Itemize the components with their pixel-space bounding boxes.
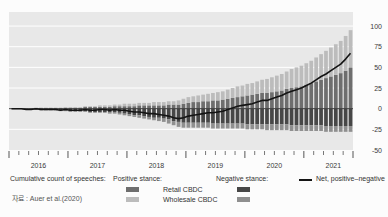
- bar-negative-retail: [349, 109, 353, 126]
- bar-negative-wholesale: [103, 112, 107, 113]
- bar-positive-wholesale: [172, 101, 176, 104]
- bar-negative-retail: [216, 109, 220, 124]
- bar-negative-wholesale: [265, 124, 269, 130]
- bar-positive-retail: [177, 105, 181, 109]
- bar-negative-retail: [236, 109, 240, 124]
- positive-wholesale-swatch: [126, 197, 139, 202]
- bar-negative-wholesale: [177, 122, 181, 127]
- bar-negative-retail: [196, 109, 200, 123]
- bar-negative-retail: [314, 109, 318, 126]
- net-line-swatch: [299, 179, 312, 181]
- bar-positive-wholesale: [93, 106, 97, 107]
- cbdc-speeches-chart: 1007550250-25-50201620172018201920202021…: [0, 0, 388, 217]
- y-axis-label: 0: [378, 105, 382, 112]
- bar-positive-wholesale: [196, 95, 200, 102]
- bar-negative-wholesale: [250, 124, 254, 129]
- bar-positive-wholesale: [162, 102, 166, 105]
- bar-negative-wholesale: [98, 112, 102, 113]
- bar-positive-retail: [216, 100, 220, 108]
- bar-positive-retail: [241, 96, 245, 108]
- bar-positive-retail: [187, 103, 191, 109]
- bar-negative-wholesale: [241, 124, 245, 129]
- bar-positive-retail: [182, 104, 186, 109]
- bar-negative-wholesale: [152, 118, 156, 120]
- bar-negative-wholesale: [304, 125, 308, 131]
- bar-positive-wholesale: [177, 100, 181, 104]
- bar-negative-wholesale: [78, 111, 82, 112]
- bar-positive-retail: [167, 105, 171, 109]
- bar-positive-retail: [250, 95, 254, 109]
- bar-negative-wholesale: [88, 112, 92, 113]
- source-citation: 자료 : Auer et al.(2020): [12, 193, 82, 203]
- bar-negative-wholesale: [216, 124, 220, 129]
- bar-positive-retail: [304, 85, 308, 109]
- x-axis-year-label: 2016: [31, 162, 47, 169]
- bar-positive-wholesale: [118, 105, 122, 107]
- bar-positive-retail: [314, 81, 318, 108]
- bar-negative-wholesale: [167, 119, 171, 123]
- bar-positive-wholesale: [83, 106, 87, 107]
- bar-negative-wholesale: [280, 124, 284, 130]
- bar-negative-wholesale: [270, 124, 274, 130]
- bar-negative-wholesale: [334, 126, 338, 132]
- bar-positive-wholesale: [295, 67, 299, 87]
- bar-negative-wholesale: [69, 111, 73, 112]
- bar-negative-wholesale: [118, 113, 122, 115]
- bar-negative-wholesale: [349, 126, 353, 132]
- y-axis-label: 50: [374, 64, 382, 71]
- bar-negative-wholesale: [108, 112, 112, 114]
- bar-positive-wholesale: [245, 84, 249, 96]
- bar-negative-retail: [344, 109, 348, 126]
- bar-negative-wholesale: [245, 124, 249, 129]
- x-axis-year-label: 2019: [208, 162, 224, 169]
- bar-negative-wholesale: [83, 111, 87, 112]
- bar-positive-wholesale: [241, 86, 245, 97]
- bar-negative-retail: [265, 109, 269, 125]
- bar-negative-retail: [339, 109, 343, 126]
- bar-negative-retail: [309, 109, 313, 126]
- bar-negative-wholesale: [132, 115, 136, 117]
- bar-positive-retail: [349, 67, 353, 108]
- bar-negative-wholesale: [344, 126, 348, 132]
- x-axis-year-label: 2017: [90, 162, 106, 169]
- bar-positive-retail: [226, 99, 230, 109]
- bar-positive-wholesale: [349, 30, 353, 67]
- bar-negative-wholesale: [157, 118, 161, 121]
- bar-positive-retail: [191, 102, 195, 109]
- bar-positive-wholesale: [128, 104, 132, 106]
- y-axis-label: 100: [370, 23, 382, 30]
- bar-positive-wholesale: [137, 103, 141, 105]
- y-axis-label: 75: [374, 43, 382, 50]
- bar-positive-wholesale: [265, 79, 269, 93]
- bar-negative-wholesale: [300, 125, 304, 131]
- bar-positive-wholesale: [339, 41, 343, 73]
- bar-negative-retail: [241, 109, 245, 124]
- bar-positive-wholesale: [216, 92, 220, 100]
- bar-negative-retail: [255, 109, 259, 125]
- x-axis-year-label: 2021: [326, 162, 342, 169]
- bar-positive-wholesale: [98, 105, 102, 107]
- bar-positive-wholesale: [285, 71, 289, 88]
- bar-positive-retail: [221, 100, 225, 109]
- bar-negative-wholesale: [128, 114, 132, 116]
- bar-negative-retail: [250, 109, 254, 125]
- bar-negative-wholesale: [329, 126, 333, 132]
- bar-negative-wholesale: [255, 124, 259, 129]
- bar-negative-wholesale: [162, 119, 166, 122]
- bar-negative-wholesale: [113, 112, 117, 114]
- legend-positive-header: Positive stance:: [113, 175, 162, 183]
- bar-negative-wholesale: [147, 117, 151, 119]
- bar-negative-wholesale: [93, 112, 97, 113]
- bar-positive-wholesale: [157, 102, 161, 105]
- bar-positive-wholesale: [201, 95, 205, 102]
- bar-negative-wholesale: [191, 123, 195, 128]
- bar-positive-wholesale: [167, 101, 171, 104]
- bar-positive-wholesale: [142, 103, 146, 105]
- bar-positive-wholesale: [182, 99, 186, 104]
- bar-negative-wholesale: [196, 123, 200, 128]
- bar-positive-wholesale: [304, 63, 308, 84]
- bar-positive-retail: [324, 78, 328, 109]
- bar-positive-wholesale: [103, 105, 107, 107]
- bar-positive-retail: [329, 76, 333, 108]
- bar-negative-wholesale: [172, 121, 176, 125]
